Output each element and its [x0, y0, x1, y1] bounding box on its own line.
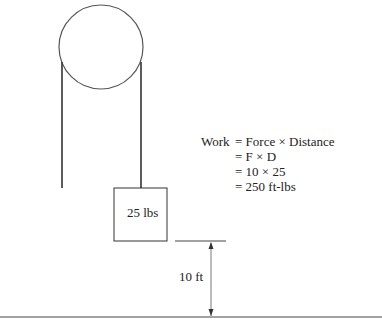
equation-line-2: = F × D	[235, 149, 276, 164]
equation-line-3: = 10 × 25	[235, 164, 285, 179]
distance-label: 10 ft	[179, 269, 203, 285]
equation-line-1: = Force × Distance	[235, 134, 335, 149]
equation-line-4: = 250 ft-lbs	[235, 179, 296, 194]
arrow-up-icon	[209, 242, 214, 249]
weight-label: 25 lbs	[127, 205, 158, 221]
pulley-wheel	[59, 5, 143, 89]
equation-lhs: Work	[201, 134, 230, 149]
arrow-down-icon	[209, 309, 214, 316]
